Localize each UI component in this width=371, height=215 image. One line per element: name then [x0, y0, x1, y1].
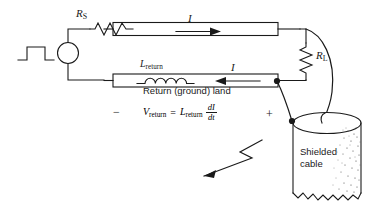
return-to-cable-wire — [277, 81, 292, 121]
derivative-denominator: dt — [206, 113, 217, 122]
cable-termination-node — [289, 118, 295, 124]
derivative-numerator: dI — [206, 103, 217, 112]
return-inductor — [137, 78, 194, 83]
cable-label-line2: cable — [300, 158, 323, 169]
return-voltage-equation: Vreturn = Lreturn dI dt — [143, 103, 217, 122]
load-resistor — [300, 43, 312, 80]
label-polarity-plus: + — [266, 108, 273, 120]
cable-label-line1: Shielded — [300, 146, 337, 157]
equation-lhs: Vreturn — [143, 106, 166, 119]
source-bottom-lead — [68, 64, 104, 81]
equation-rhs: Lreturn — [180, 106, 203, 119]
radiation-arrow-shaft — [204, 140, 262, 176]
label-source-resistor: RS — [76, 8, 87, 21]
load-bottom-wire — [278, 80, 306, 81]
cable-torn-bottom — [293, 193, 361, 200]
current-arrow-bottom-head — [215, 77, 226, 85]
label-load-resistor: RL — [316, 50, 328, 63]
label-return-inductor: Lreturn — [140, 59, 163, 71]
equation-equals: = — [170, 107, 176, 118]
figure-canvas: RS I RL Lreturn I Return (ground) land −… — [0, 0, 371, 215]
radiation-arrow-head — [204, 170, 216, 178]
load-to-cable-wire — [306, 29, 333, 123]
voltage-source-circle — [58, 43, 79, 64]
label-current-bottom: I — [231, 62, 235, 73]
equation-derivative: dI dt — [206, 103, 217, 122]
signal-land — [113, 23, 278, 36]
cable-top-ellipse — [293, 113, 361, 134]
pulse-source-waveform — [18, 47, 54, 60]
source-top-lead — [68, 29, 90, 43]
label-shielded-cable: Shielded cable — [300, 146, 337, 170]
current-arrow-top-head — [210, 28, 221, 36]
label-current-top: I — [188, 13, 192, 24]
label-polarity-minus: − — [113, 106, 120, 118]
load-top-wire — [300, 29, 306, 43]
label-ground-land: Return (ground) land — [143, 86, 231, 96]
